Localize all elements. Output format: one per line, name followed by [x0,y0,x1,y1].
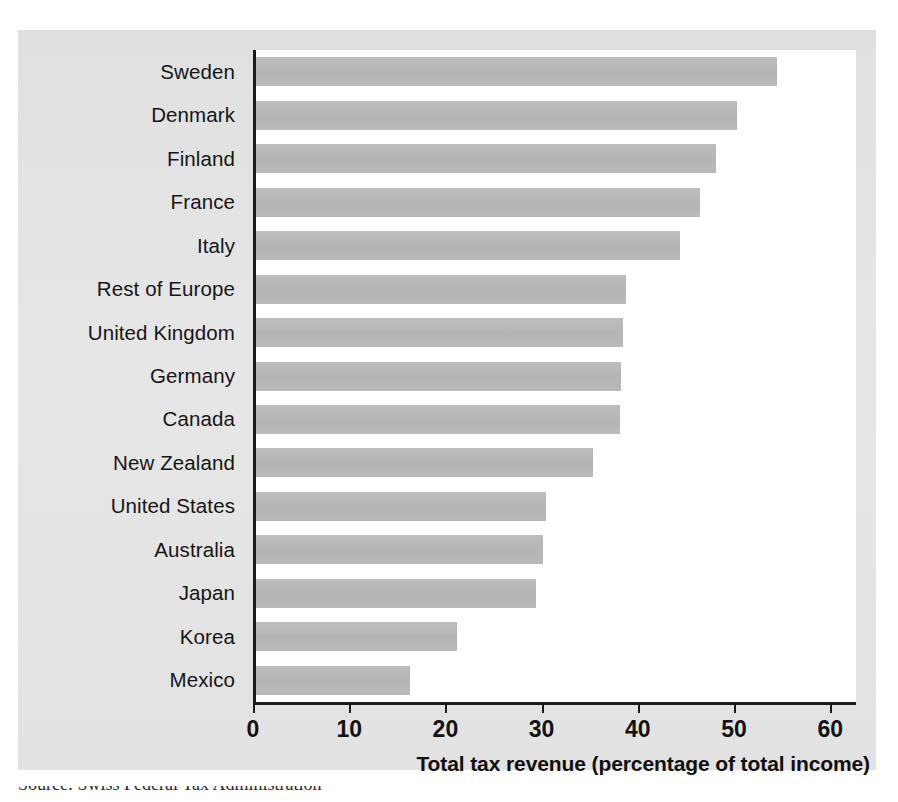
category-label: Denmark [151,103,235,127]
bar [256,448,593,477]
x-tick-mark [638,702,640,713]
x-tick-label: 40 [625,716,651,743]
category-label: Japan [179,581,235,605]
bar [256,275,626,304]
bar [256,579,536,608]
bar [256,318,623,347]
bar [256,188,700,217]
bar [256,231,680,260]
x-tick-mark [542,702,544,713]
source-note-text: Source: Swiss Federal Tax Administration [18,786,321,795]
x-tick-mark [349,702,351,713]
x-tick-mark [734,702,736,713]
source-note: Source: Swiss Federal Tax Administration [18,786,618,802]
category-label: Canada [163,407,235,431]
bar [256,101,737,130]
category-label: Korea [180,625,235,649]
bar [256,405,620,434]
figure-container: SwedenDenmarkFinlandFranceItalyRest of E… [0,0,898,802]
bar [256,144,716,173]
category-label: Germany [150,364,235,388]
category-label: Sweden [160,60,235,84]
x-tick-mark [830,702,832,713]
x-tick-label: 20 [433,716,459,743]
x-tick-mark [445,702,447,713]
category-label: France [171,190,235,214]
category-label: Rest of Europe [97,277,235,301]
category-label: United States [111,494,235,518]
x-tick-label: 30 [529,716,555,743]
category-label: Finland [167,147,235,171]
bar [256,666,410,695]
bar [256,362,621,391]
category-label: Italy [197,234,235,258]
category-label: Australia [154,538,235,562]
bar [256,535,543,564]
x-axis-title: Total tax revenue (percentage of total i… [416,752,870,776]
bar-series [256,50,856,702]
bar [256,57,777,86]
x-tick-label: 60 [817,716,843,743]
x-axis-line [253,702,856,705]
x-tick-label: 50 [721,716,747,743]
x-tick-mark [253,702,255,713]
category-label: Mexico [169,668,235,692]
category-label: New Zealand [113,451,235,475]
bar [256,622,457,651]
bar [256,492,546,521]
x-tick-label: 0 [247,716,260,743]
category-label: United Kingdom [88,321,235,345]
x-tick-label: 10 [336,716,362,743]
category-axis-labels: SwedenDenmarkFinlandFranceItalyRest of E… [20,50,247,702]
